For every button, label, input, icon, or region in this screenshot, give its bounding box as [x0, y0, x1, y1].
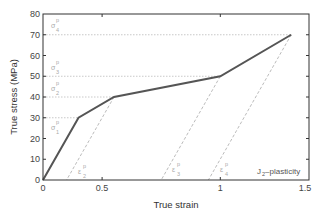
y-tick-labels: 0 10 20 30 40 50 60 70 80: [30, 9, 40, 185]
svg-text:3: 3: [56, 69, 59, 75]
y-tick-50: 50: [30, 71, 40, 81]
svg-text:1: 1: [56, 129, 59, 135]
y-tick-80: 80: [30, 9, 40, 19]
epsilon-4-label: ε p 4: [220, 161, 228, 177]
sigma-1-label: σ p 1: [51, 119, 59, 135]
x-tick-1.5: 1.5: [299, 183, 312, 193]
stress-strain-chart: 0 10 20 30 40 50 60 70 80 0 0.5 1 1.5 Tr…: [0, 0, 324, 214]
y-tick-20: 20: [30, 134, 40, 144]
svg-text:p: p: [56, 119, 59, 125]
svg-text:p: p: [56, 59, 59, 65]
svg-text:p: p: [56, 17, 59, 23]
svg-text:p: p: [83, 163, 86, 169]
svg-text:2: 2: [83, 173, 86, 179]
svg-text:p: p: [225, 161, 228, 167]
y-tick-0: 0: [35, 175, 40, 185]
sigma-3-label: σ p 3: [51, 59, 59, 75]
y-axis-label: True stress (MPa): [8, 59, 19, 135]
svg-text:p: p: [177, 161, 180, 167]
svg-text:2: 2: [56, 90, 59, 96]
svg-text:p: p: [56, 80, 59, 86]
epsilon-2-label: ε p 2: [78, 163, 86, 179]
x-tick-labels: 0 0.5 1 1.5: [40, 183, 311, 193]
y-tick-10: 10: [30, 154, 40, 164]
svg-text:ε: ε: [172, 166, 175, 173]
svg-text:4: 4: [225, 171, 228, 177]
svg-text:J: J: [257, 167, 261, 176]
y-tick-40: 40: [30, 92, 40, 102]
svg-text:–plasticity: –plasticity: [265, 167, 300, 176]
epsilon-3-label: ε p 3: [172, 161, 180, 177]
svg-text:ε: ε: [220, 166, 223, 173]
stress-strain-curve: [43, 35, 291, 180]
stress-level-lines: [43, 35, 291, 118]
sigma-2-label: σ p 2: [51, 80, 59, 96]
svg-text:ε: ε: [78, 168, 81, 175]
epsilon-labels: ε p 2 ε p 3 ε p 4: [78, 161, 228, 179]
sigma-4-label: σ p 4: [51, 17, 59, 33]
x-tick-1: 1: [218, 183, 223, 193]
x-tick-0.5: 0.5: [96, 183, 109, 193]
j2-plasticity-annotation: J 2 –plasticity: [257, 167, 300, 177]
svg-text:3: 3: [177, 171, 180, 177]
y-tick-30: 30: [30, 113, 40, 123]
y-tick-70: 70: [30, 30, 40, 40]
x-axis-label: True strain: [153, 199, 198, 210]
x-tick-0: 0: [40, 183, 45, 193]
svg-text:4: 4: [56, 27, 59, 33]
y-tick-60: 60: [30, 51, 40, 61]
